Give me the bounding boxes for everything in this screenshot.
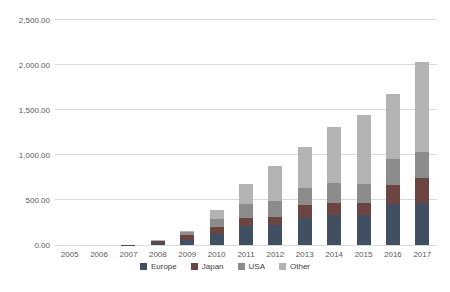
y-tick-label-2,500.00: 2,500.00 (0, 16, 50, 25)
legend-swatch-other (279, 263, 286, 270)
bar-segment-2016-other (386, 94, 400, 158)
bar-segment-2015-japan (357, 203, 371, 215)
bar-segment-2010-europe (210, 234, 224, 245)
bar-segment-2010-japan (210, 227, 224, 234)
gridline-1000 (55, 154, 437, 155)
gridline-1500 (55, 109, 437, 110)
bar-segment-2013-japan (298, 205, 312, 218)
bar-segment-2017-other (415, 62, 429, 152)
legend-label-usa: USA (249, 262, 265, 271)
bar-segment-2012-japan (268, 217, 282, 225)
stacked-bar-chart: 0.00500.001,000.001,500.002,000.002,500.… (0, 0, 450, 292)
bar-2008 (151, 240, 165, 245)
bar-segment-2014-other (327, 127, 341, 183)
legend-swatch-japan (191, 263, 198, 270)
bar-segment-2011-usa (239, 204, 253, 219)
bar-2010 (210, 210, 224, 245)
bar-segment-2013-europe (298, 218, 312, 245)
bar-segment-2015-other (357, 115, 371, 185)
bar-segment-2012-europe (268, 225, 282, 245)
legend-swatch-usa (238, 263, 245, 270)
x-tick-label-2017: 2017 (405, 250, 439, 259)
bar-2012 (268, 166, 282, 245)
gridline-0 (55, 245, 437, 246)
bar-segment-2017-japan (415, 178, 429, 203)
bar-segment-2009-europe (180, 240, 194, 245)
bar-2017 (415, 62, 429, 245)
gridline-2000 (55, 64, 437, 65)
bar-segment-2014-japan (327, 203, 341, 215)
bar-2013 (298, 147, 312, 245)
bar-segment-2016-europe (386, 204, 400, 245)
bar-segment-2013-other (298, 147, 312, 188)
legend: EuropeJapanUSAOther (0, 262, 450, 271)
gridline-2500 (55, 19, 437, 20)
bar-2014 (327, 127, 341, 245)
y-tick-label-1,000.00: 1,000.00 (0, 151, 50, 160)
bar-segment-2015-usa (357, 184, 371, 203)
bar-segment-2012-other (268, 166, 282, 201)
bar-segment-2017-europe (415, 203, 429, 245)
bar-segment-2017-usa (415, 152, 429, 178)
bar-segment-2012-usa (268, 201, 282, 217)
legend-item-europe: Europe (140, 262, 177, 271)
plot-area (55, 20, 437, 245)
bar-segment-2010-other (210, 210, 224, 219)
bar-segment-2011-japan (239, 218, 253, 225)
bar-segment-2016-japan (386, 185, 400, 204)
legend-item-other: Other (279, 262, 310, 271)
y-tick-label-2,000.00: 2,000.00 (0, 61, 50, 70)
bar-2011 (239, 184, 253, 245)
y-tick-label-1,500.00: 1,500.00 (0, 106, 50, 115)
legend-label-other: Other (290, 262, 310, 271)
bar-segment-2010-usa (210, 219, 224, 227)
bar-segment-2016-usa (386, 159, 400, 186)
legend-swatch-europe (140, 263, 147, 270)
legend-item-japan: Japan (191, 262, 224, 271)
legend-label-europe: Europe (151, 262, 177, 271)
bar-2016 (386, 94, 400, 245)
bar-segment-2014-europe (327, 215, 341, 245)
bar-segment-2008-europe (151, 243, 165, 245)
bar-2015 (357, 115, 371, 245)
y-tick-label-0.00: 0.00 (0, 241, 50, 250)
bar-segment-2013-usa (298, 188, 312, 205)
y-tick-label-500.00: 500.00 (0, 196, 50, 205)
bar-segment-2015-europe (357, 215, 371, 245)
bar-segment-2011-other (239, 184, 253, 204)
legend-label-japan: Japan (202, 262, 224, 271)
bar-segment-2011-europe (239, 226, 253, 245)
legend-item-usa: USA (238, 262, 265, 271)
bar-2009 (180, 231, 194, 245)
bar-segment-2014-usa (327, 183, 341, 203)
